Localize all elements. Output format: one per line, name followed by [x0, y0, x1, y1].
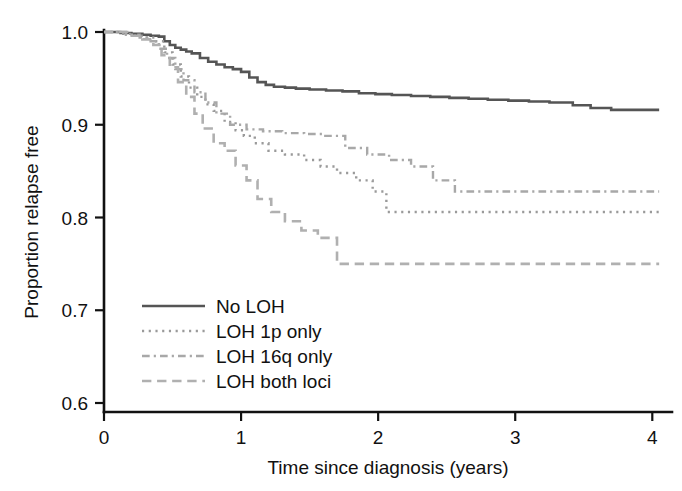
- curve-loh-both-loci: [104, 32, 659, 264]
- y-axis-title: Proportion relapse free: [21, 125, 42, 318]
- kaplan-meier-plot: 0.60.70.80.91.0 01234 No LOHLOH 1p onlyL…: [0, 0, 682, 491]
- survival-curve-figure: 0.60.70.80.91.0 01234 No LOHLOH 1p onlyL…: [0, 0, 682, 491]
- plot-axes: [104, 30, 672, 412]
- legend-label-loh-16q-only: LOH 16q only: [216, 346, 333, 367]
- y-tick-label: 1.0: [62, 22, 88, 43]
- y-tick-label: 0.6: [62, 393, 88, 414]
- x-tick-label: 3: [510, 427, 521, 448]
- curve-no-loh: [104, 32, 659, 110]
- y-tick-label: 0.9: [62, 115, 88, 136]
- data-curves: [104, 32, 659, 264]
- chart-legend: No LOHLOH 1p onlyLOH 16q onlyLOH both lo…: [142, 296, 333, 392]
- x-tick-label: 0: [99, 427, 110, 448]
- legend-label-no-loh: No LOH: [216, 296, 285, 317]
- x-tick-label: 2: [373, 427, 384, 448]
- x-axis-ticks: 01234: [99, 412, 658, 448]
- x-axis-title: Time since diagnosis (years): [267, 457, 508, 478]
- curve-loh-1p-only: [104, 32, 659, 212]
- y-tick-label: 0.8: [62, 208, 88, 229]
- curve-loh-16q-only: [104, 32, 659, 192]
- legend-label-loh-both-loci: LOH both loci: [216, 371, 331, 392]
- y-tick-label: 0.7: [62, 300, 88, 321]
- x-tick-label: 4: [647, 427, 658, 448]
- legend-label-loh-1p-only: LOH 1p only: [216, 321, 322, 342]
- x-tick-label: 1: [236, 427, 247, 448]
- y-axis-ticks: 0.60.70.80.91.0: [62, 22, 104, 414]
